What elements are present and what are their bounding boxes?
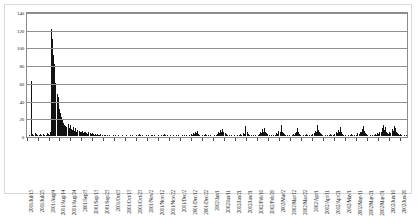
gridline xyxy=(27,102,407,103)
y-tick-label: 40 xyxy=(19,99,24,104)
x-tick-mark xyxy=(257,138,258,141)
x-axis-labels: 2001/Jul/152001/Jul/252001/Aug/42001/Aug… xyxy=(26,138,408,194)
x-tick-mark xyxy=(49,138,50,141)
x-tick-mark xyxy=(180,138,181,141)
bar xyxy=(255,135,256,136)
x-tick-mark xyxy=(323,138,324,141)
bar xyxy=(184,135,185,136)
x-tick-mark xyxy=(213,138,214,141)
bar xyxy=(107,135,108,136)
bar xyxy=(118,135,119,136)
bar xyxy=(154,135,155,136)
bar xyxy=(130,135,131,136)
x-tick-label: 2002/Mar/22 xyxy=(303,190,308,208)
bar xyxy=(41,135,42,136)
x-tick-label: 2002/Feb/20 xyxy=(270,190,275,208)
x-tick-mark xyxy=(246,138,247,141)
x-tick-label: 2001/Aug/24 xyxy=(72,190,77,208)
bar xyxy=(331,135,332,136)
bar xyxy=(303,135,304,136)
bar xyxy=(161,135,162,136)
x-tick-label: 2001/Sep/3 xyxy=(83,190,88,208)
bar xyxy=(206,135,207,136)
y-tick-label: 0 xyxy=(22,135,24,140)
x-tick-label: 2001/Sep/13 xyxy=(94,190,99,208)
plot-area-wrapper xyxy=(26,12,408,138)
x-tick-label: 2002/Jan/1 xyxy=(215,190,220,208)
bar xyxy=(158,135,159,136)
x-tick-label: 2001/Oct/13 xyxy=(127,190,132,208)
x-tick-mark xyxy=(169,138,170,141)
bar xyxy=(348,135,349,136)
bar xyxy=(251,135,252,136)
x-tick-mark xyxy=(334,138,335,141)
x-tick-label: 2001/Nov/12 xyxy=(160,190,165,208)
bar xyxy=(167,135,168,136)
bar xyxy=(343,135,344,136)
bar xyxy=(322,135,323,136)
x-tick-mark xyxy=(345,138,346,141)
bar xyxy=(289,135,290,136)
bar xyxy=(199,135,200,136)
bar xyxy=(241,135,242,136)
x-tick-label: 2002/May/21 xyxy=(369,190,374,208)
bar xyxy=(309,135,310,136)
gridline xyxy=(27,48,407,49)
x-tick-mark xyxy=(235,138,236,141)
bar xyxy=(132,135,133,136)
y-tick-label: 80 xyxy=(19,64,24,69)
bar xyxy=(31,81,32,136)
x-tick-mark xyxy=(290,138,291,141)
x-tick-label: 2002/Jan/21 xyxy=(237,190,242,208)
bar xyxy=(325,135,326,136)
bar xyxy=(105,135,106,136)
x-tick-label: 2002/Apr/1 xyxy=(314,190,319,208)
bar xyxy=(208,135,209,136)
bar xyxy=(300,135,301,136)
bar xyxy=(367,135,368,136)
x-tick-mark xyxy=(103,138,104,141)
bar xyxy=(287,135,288,136)
bar xyxy=(354,135,355,136)
bar xyxy=(285,135,286,136)
x-tick-label: 2002/May/1 xyxy=(347,190,352,208)
x-tick-label: 2002/Mar/12 xyxy=(292,190,297,208)
x-tick-mark xyxy=(312,138,313,141)
x-tick-mark xyxy=(27,138,28,141)
bar xyxy=(370,135,371,136)
bar xyxy=(231,135,232,136)
x-tick-mark xyxy=(224,138,225,141)
x-tick-mark xyxy=(114,138,115,141)
bar xyxy=(109,135,110,136)
x-tick-mark xyxy=(59,138,60,141)
bar xyxy=(113,135,114,136)
bar xyxy=(271,135,272,136)
bar xyxy=(401,135,402,136)
bar xyxy=(404,135,405,136)
y-tick-label: 120 xyxy=(17,28,24,33)
bar xyxy=(202,135,203,136)
bar xyxy=(102,135,103,136)
bar xyxy=(173,135,174,136)
gridline xyxy=(27,119,407,120)
x-tick-label: 2001/Sep/23 xyxy=(105,190,110,208)
bar xyxy=(253,135,254,136)
bar xyxy=(115,135,116,136)
gridline xyxy=(27,13,407,14)
y-tick-label: 100 xyxy=(17,46,24,51)
bar xyxy=(186,135,187,136)
bar xyxy=(352,135,353,136)
bar xyxy=(146,135,147,136)
bar xyxy=(237,135,238,136)
bar xyxy=(136,135,137,136)
bar xyxy=(227,135,228,136)
bar xyxy=(176,135,177,136)
bar xyxy=(327,135,328,136)
x-tick-label: 2001/Dec/2 xyxy=(182,190,187,208)
bar xyxy=(165,135,166,136)
x-tick-mark xyxy=(147,138,148,141)
x-tick-label: 2002/Jun/20 xyxy=(402,190,407,208)
chart-figure: 020406080100120140 2001/Jul/152001/Jul/2… xyxy=(4,4,412,194)
x-tick-label: 2002/Apr/11 xyxy=(325,190,330,208)
x-tick-mark xyxy=(125,138,126,141)
